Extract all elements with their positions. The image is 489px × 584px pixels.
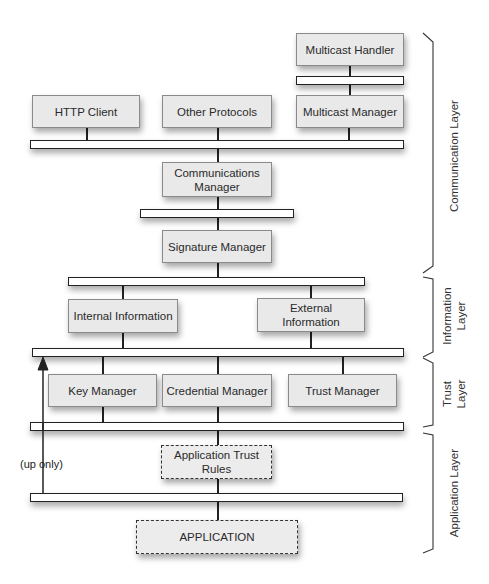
up-only-note: (up only) [20,458,63,470]
trust-layer-text-line1: Trust [441,381,453,407]
communication-layer-text: Communication Layer [448,100,460,212]
trust-layer-text-line2: Layer [455,380,467,409]
arrows-and-brackets [0,0,489,584]
application-layer-label: Application Layer [447,443,461,543]
application-layer-text: Application Layer [448,449,460,537]
up-only-arrow-icon [38,357,48,494]
information-layer-text-line1: Information [441,287,453,345]
information-layer-text-line2: Layer [455,302,467,331]
information-layer-label: Information Layer [440,286,468,346]
communication-layer-label: Communication Layer [447,96,461,216]
trust-layer-label: Trust Layer [440,374,468,414]
layer-brackets-icon [423,33,433,553]
